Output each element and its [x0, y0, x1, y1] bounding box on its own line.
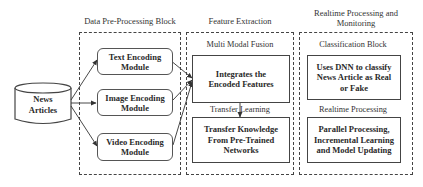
text-encoding-module: Text EncodingModule — [97, 48, 173, 75]
block-title-line2: Monitoring — [299, 18, 413, 28]
fusion-box: Integrates theEncoded Features — [192, 55, 290, 103]
module-label-line1: Text Encoding — [109, 52, 161, 62]
section-title-multi-modal-fusion: Multi Modal Fusion — [186, 40, 294, 50]
image-encoding-module: Image EncodingModule — [97, 89, 173, 116]
classification-box: Uses DNN to classifyNews Article as Real… — [307, 55, 401, 100]
box-line1: Integrates the — [208, 69, 273, 80]
source-label-line2: Articles — [15, 105, 71, 116]
box-line2: From Pre-Trained — [204, 135, 278, 146]
module-label-line1: Video Encoding — [106, 137, 164, 147]
source-news-articles: News Articles — [15, 94, 71, 116]
box-line3: Networks — [204, 145, 278, 156]
module-label-line2: Module — [109, 62, 161, 72]
transfer-knowledge-box: Transfer KnowledgeFrom Pre-TrainedNetwor… — [192, 117, 290, 163]
block-title-realtime-processing: Realtime Processing and Monitoring — [299, 8, 413, 28]
box-line2: Incremental Learning — [314, 135, 394, 146]
video-encoding-module: Video EncodingModule — [97, 133, 173, 161]
block-title-feature-extraction: Feature Extraction — [186, 16, 294, 26]
block-title-data-preprocessing: Data Pre-Processing Block — [79, 16, 181, 26]
module-label-line1: Image Encoding — [105, 93, 164, 103]
section-title-transfer-learning: Transfer Learning — [186, 105, 294, 115]
section-title-realtime-processing: Realtime Processing — [299, 105, 407, 115]
box-line2: News Article as Real — [317, 72, 392, 83]
box-line2: Encoded Features — [208, 79, 273, 90]
section-title-classification-block: Classification Block — [299, 40, 407, 50]
box-line1: Uses DNN to classify — [317, 62, 392, 73]
box-line3: or Fake — [317, 83, 392, 94]
box-line1: Parallel Processing, — [314, 124, 394, 135]
parallel-processing-box: Parallel Processing,Incremental Learning… — [307, 117, 401, 163]
block-title-line1: Realtime Processing and — [299, 8, 413, 18]
source-label-line1: News — [15, 94, 71, 105]
box-line3: and Model Updating — [314, 145, 394, 156]
box-line1: Transfer Knowledge — [204, 124, 278, 135]
module-label-line2: Module — [106, 147, 164, 157]
module-label-line2: Module — [105, 103, 164, 113]
